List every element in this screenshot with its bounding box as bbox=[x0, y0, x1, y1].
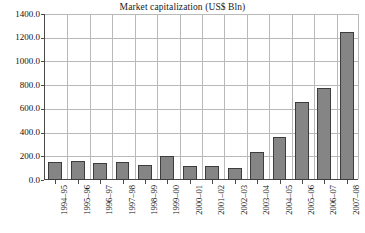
bar bbox=[205, 166, 219, 180]
x-axis-tick-label: 1994–95 bbox=[59, 185, 69, 231]
x-axis-tick bbox=[235, 180, 236, 184]
bar bbox=[160, 156, 174, 180]
x-axis-tick-label: 2002–03 bbox=[239, 185, 249, 231]
x-axis-tick-label: 2000–01 bbox=[194, 185, 204, 231]
y-axis-tick-label: 1400.0 bbox=[0, 10, 40, 19]
bar bbox=[138, 165, 152, 180]
y-axis-tick-label: 400.0 bbox=[0, 128, 40, 137]
x-axis-tick-label: 2007–08 bbox=[351, 185, 361, 231]
x-axis-tick bbox=[347, 180, 348, 184]
chart-title: Market capitalization (US$ Bln) bbox=[0, 0, 365, 14]
bar bbox=[273, 137, 287, 180]
x-axis-tick bbox=[302, 180, 303, 184]
x-axis-tick bbox=[123, 180, 124, 184]
y-axis-tick-label: 1000.0 bbox=[0, 57, 40, 66]
bars-container bbox=[44, 14, 358, 180]
bar bbox=[295, 102, 309, 180]
x-axis-tick-label: 1998–99 bbox=[149, 185, 159, 231]
y-axis-tick-label: 1200.0 bbox=[0, 33, 40, 42]
x-axis-tick bbox=[55, 180, 56, 184]
x-axis-tick-label: 1999–00 bbox=[171, 185, 181, 231]
x-axis-tick-label: 2006–07 bbox=[328, 185, 338, 231]
x-axis-tick bbox=[190, 180, 191, 184]
x-axis-tick bbox=[100, 180, 101, 184]
bar bbox=[93, 163, 107, 180]
x-axis-tick bbox=[280, 180, 281, 184]
y-axis-tick-label: 600.0 bbox=[0, 104, 40, 113]
x-axis-tick-label: 2003–04 bbox=[261, 185, 271, 231]
bar bbox=[250, 152, 264, 180]
y-axis-tick-label: 200.0 bbox=[0, 152, 40, 161]
bar bbox=[116, 162, 130, 180]
y-axis-tick-label: 0.0 bbox=[0, 176, 40, 185]
x-axis-tick bbox=[257, 180, 258, 184]
x-axis-tick-label: 1997–98 bbox=[127, 185, 137, 231]
x-axis-tick bbox=[167, 180, 168, 184]
gridline-vertical bbox=[358, 14, 359, 179]
bar-chart: Market capitalization (US$ Bln) 0.0200.0… bbox=[0, 0, 365, 233]
y-axis-tick-label: 800.0 bbox=[0, 81, 40, 90]
bar bbox=[317, 88, 331, 180]
bar bbox=[48, 162, 62, 180]
bar bbox=[228, 168, 242, 180]
x-axis-tick bbox=[78, 180, 79, 184]
x-axis-labels: 1994–951995–961996–971997–981998–991999–… bbox=[44, 185, 358, 233]
x-axis-tick-label: 1996–97 bbox=[104, 185, 114, 231]
y-axis: 0.0200.0400.0600.0800.01000.01200.01400.… bbox=[0, 0, 40, 233]
x-axis-tick-label: 2005–06 bbox=[306, 185, 316, 231]
x-axis-tick bbox=[324, 180, 325, 184]
bar bbox=[71, 161, 85, 180]
x-axis-tick bbox=[212, 180, 213, 184]
x-axis-tick bbox=[145, 180, 146, 184]
x-axis-tick-label: 1995–96 bbox=[82, 185, 92, 231]
bar bbox=[340, 32, 354, 180]
bar bbox=[183, 166, 197, 180]
x-axis-tick-label: 2001–02 bbox=[216, 185, 226, 231]
x-axis-tick-label: 2004–05 bbox=[284, 185, 294, 231]
